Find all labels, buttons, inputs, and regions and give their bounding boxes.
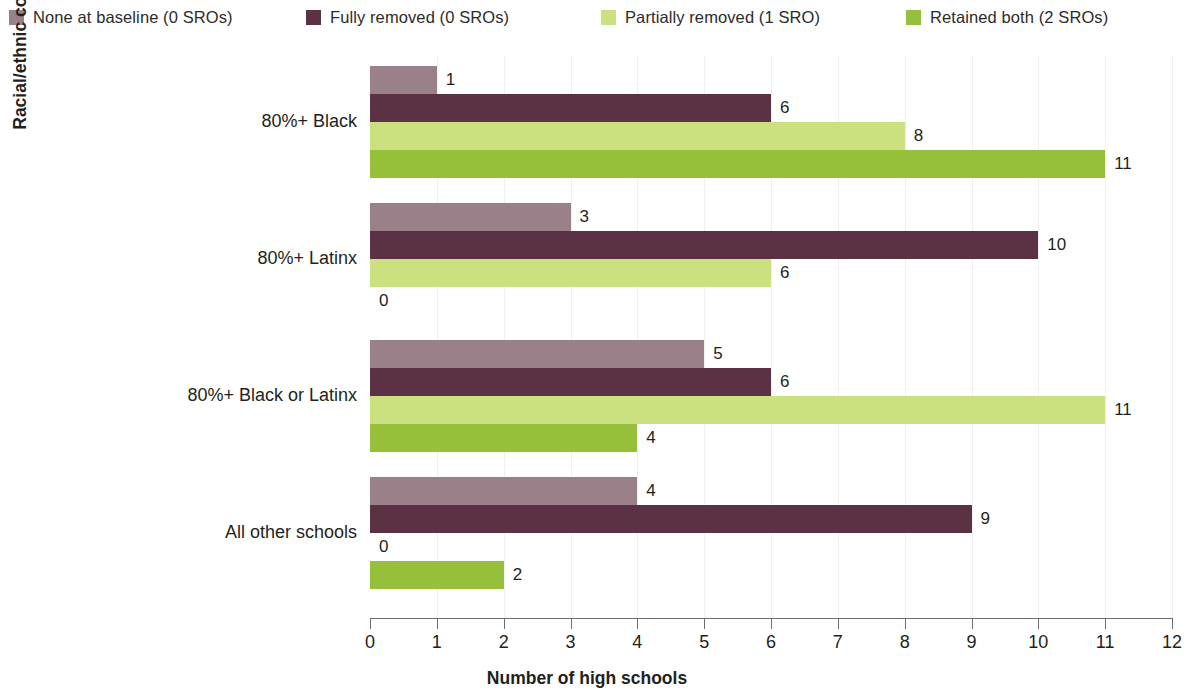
x-axis-tick [1105,618,1106,629]
bar-value-label: 6 [780,263,789,283]
bar-row: 2 [370,561,1172,589]
legend-item-label: Fully removed (0 SROs) [330,8,509,27]
bar-row: 8 [370,122,1172,150]
bar [370,368,771,396]
x-axis-tick-label: 3 [551,632,591,653]
bar-value-label: 2 [513,565,522,585]
x-axis-tick-label: 5 [684,632,724,653]
legend-item-label: Retained both (2 SROs) [930,8,1108,27]
x-axis-tick [370,618,371,629]
x-axis-tick-label: 0 [350,632,390,653]
x-axis-tick [838,618,839,629]
bar-value-label: 0 [379,537,388,557]
y-axis-title: Racial/ethnic composition of school [10,0,31,150]
x-axis-tick-label: 11 [1085,632,1125,653]
x-axis-tick-label: 4 [617,632,657,653]
bar-row: 4 [370,424,1172,452]
x-axis-tick [637,618,638,629]
legend-item-label: Partially removed (1 SRO) [625,8,820,27]
x-axis-tick-label: 8 [885,632,925,653]
bar-value-label: 4 [646,428,655,448]
x-axis-tick-label: 10 [1018,632,1058,653]
x-axis-tick [905,618,906,629]
bar [370,203,571,231]
y-axis-category-label: 80%+ Latinx [257,248,357,269]
x-axis-tick-label: 6 [751,632,791,653]
x-axis-tick [704,618,705,629]
gridline [1172,56,1173,618]
y-axis-category-label: 80%+ Black [261,111,357,132]
bar-row: 11 [370,396,1172,424]
bar [370,561,504,589]
bar [370,231,1038,259]
bar-value-label: 5 [713,344,722,364]
bar-value-label: 0 [379,291,388,311]
x-axis-title: Number of high schools [0,668,1174,689]
bar-value-label: 4 [646,481,655,501]
bar [370,259,771,287]
legend-item-partially-removed: Partially removed (1 SRO) [601,8,820,27]
bar-row: 3 [370,203,1172,231]
legend-item-none-at-baseline: None at baseline (0 SROs) [9,8,233,27]
bar-row: 4 [370,477,1172,505]
bar-value-label: 1 [446,70,455,90]
legend-item-label: None at baseline (0 SROs) [33,8,233,27]
bar [370,122,905,150]
y-axis-category-label: 80%+ Black or Latinx [187,385,357,406]
bar [370,340,704,368]
bar [370,66,437,94]
x-axis-tick [771,618,772,629]
bar-row: 9 [370,505,1172,533]
bar-value-label: 3 [580,207,589,227]
bar-row: 6 [370,94,1172,122]
plot-area: 1681131060561144902 [370,56,1172,618]
bar [370,424,637,452]
bar-row: 5 [370,340,1172,368]
bar-row: 10 [370,231,1172,259]
bar-value-label: 11 [1114,400,1132,420]
legend-swatch-icon [906,10,921,25]
bar [370,396,1105,424]
legend-item-fully-removed: Fully removed (0 SROs) [306,8,509,27]
bar-value-label: 11 [1114,154,1132,174]
bar-row: 1 [370,66,1172,94]
x-axis-tick [1038,618,1039,629]
x-axis-tick-label: 7 [818,632,858,653]
x-axis-tick [1172,618,1173,629]
x-axis-tick-label: 1 [417,632,457,653]
bar-value-label: 8 [914,126,923,146]
x-axis-tick [437,618,438,629]
bar [370,477,637,505]
bar [370,94,771,122]
bar-value-label: 9 [981,509,990,529]
y-axis-category-label: All other schools [225,522,357,543]
x-axis-tick [571,618,572,629]
x-axis-tick-label: 9 [952,632,992,653]
bar-row: 6 [370,259,1172,287]
legend-swatch-icon [306,10,321,25]
bar [370,150,1105,178]
bar-row: 0 [370,533,1172,561]
bar-row: 0 [370,287,1172,315]
bar-value-label: 6 [780,98,789,118]
chart-legend: None at baseline (0 SROs) Fully removed … [0,0,1174,34]
bar [370,505,972,533]
x-axis-tick-label: 12 [1152,632,1186,653]
x-axis-tick [504,618,505,629]
legend-swatch-icon [601,10,616,25]
legend-item-retained-both: Retained both (2 SROs) [906,8,1108,27]
x-axis-tick-label: 2 [484,632,524,653]
bar-value-label: 10 [1047,235,1066,255]
x-axis-tick [972,618,973,629]
bar-row: 11 [370,150,1172,178]
bar-value-label: 6 [780,372,789,392]
bar-row: 6 [370,368,1172,396]
